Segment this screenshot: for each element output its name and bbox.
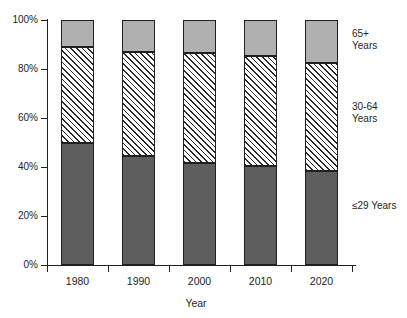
x-axis-tick-3 <box>230 266 231 272</box>
x-axis-label-1990: 1990 <box>108 276 169 287</box>
bar-segment-1990-65plus[interactable] <box>122 20 155 52</box>
bar-segment-2000-30to64[interactable] <box>183 53 216 163</box>
x-axis-tick-2 <box>169 266 170 272</box>
y-axis-label-20: 20% <box>3 211 38 221</box>
bar-segment-2020-65plus[interactable] <box>305 20 338 63</box>
series-label-65plus-line1: 65+ <box>352 28 369 39</box>
series-label-30to64-line2: Years <box>352 113 377 124</box>
x-axis-title: Year <box>47 298 345 309</box>
x-axis-label-2010: 2010 <box>230 276 291 287</box>
bar-segment-2020-under29[interactable] <box>305 171 338 265</box>
series-label-30to64: 30-64Years <box>352 101 378 124</box>
bar-segment-2020-30to64[interactable] <box>305 63 338 171</box>
x-axis-line <box>47 265 356 266</box>
bar-group-1990[interactable] <box>122 20 155 265</box>
series-label-65plus: 65+Years <box>352 28 377 51</box>
bar-segment-2010-under29[interactable] <box>244 166 277 265</box>
x-axis-label-2000: 2000 <box>169 276 230 287</box>
bar-segment-2010-30to64[interactable] <box>244 56 277 166</box>
y-axis-label-80: 80% <box>3 64 38 74</box>
bar-group-2000[interactable] <box>183 20 216 265</box>
bar-group-1980[interactable] <box>61 20 94 265</box>
stacked-bar-chart: 100% 80% 60% 40% 20% 0% 1980 1990 2000 2… <box>0 0 407 318</box>
bar-segment-1990-under29[interactable] <box>122 156 155 265</box>
series-label-65plus-line2: Years <box>352 40 377 51</box>
x-axis-tick-1 <box>108 266 109 272</box>
x-axis-tick-start <box>47 266 48 272</box>
bar-segment-2000-under29[interactable] <box>183 163 216 265</box>
plot-area <box>47 20 345 265</box>
bar-group-2010[interactable] <box>244 20 277 265</box>
bar-segment-1980-65plus[interactable] <box>61 20 94 47</box>
x-axis-tick-end <box>352 266 353 272</box>
x-axis-tick-4 <box>291 266 292 272</box>
bar-segment-1980-30to64[interactable] <box>61 47 94 143</box>
x-axis-label-2020: 2020 <box>291 276 352 287</box>
bar-segment-1990-30to64[interactable] <box>122 52 155 156</box>
y-axis-label-60: 60% <box>3 113 38 123</box>
bar-segment-1980-under29[interactable] <box>61 143 94 266</box>
y-axis-label-40: 40% <box>3 162 38 172</box>
x-axis-label-1980: 1980 <box>47 276 108 287</box>
y-axis-label-100: 100% <box>3 15 38 25</box>
y-axis-label-0: 0% <box>3 260 38 270</box>
bar-segment-2000-65plus[interactable] <box>183 20 216 53</box>
series-label-30to64-line1: 30-64 <box>352 101 378 112</box>
bar-segment-2010-65plus[interactable] <box>244 20 277 56</box>
series-label-under29: ≤29 Years <box>352 200 396 212</box>
bar-group-2020[interactable] <box>305 20 338 265</box>
